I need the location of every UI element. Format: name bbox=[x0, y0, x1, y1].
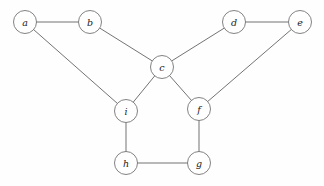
graph-node-label-b: b bbox=[87, 17, 93, 28]
graph-node-label-e: e bbox=[297, 17, 303, 28]
graph-edge-b-c bbox=[100, 28, 153, 61]
graph-edge-c-f bbox=[170, 76, 192, 101]
graph-node-c[interactable]: c bbox=[151, 56, 174, 79]
graph-edge-c-i bbox=[133, 76, 154, 102]
graph-figure: abcdefghi bbox=[0, 0, 324, 186]
graph-edge-e-f bbox=[208, 30, 292, 102]
graph-node-label-d: d bbox=[231, 17, 237, 28]
graph-node-label-i: i bbox=[124, 106, 127, 117]
graph-canvas: abcdefghi bbox=[0, 0, 324, 186]
graph-node-f[interactable]: f bbox=[188, 98, 211, 121]
graph-node-b[interactable]: b bbox=[79, 11, 102, 34]
graph-node-e[interactable]: e bbox=[289, 11, 312, 34]
graph-edge-c-d bbox=[172, 28, 225, 61]
graph-node-g[interactable]: g bbox=[188, 152, 211, 175]
graph-node-h[interactable]: h bbox=[115, 152, 138, 175]
node-layer: abcdefghi bbox=[14, 11, 312, 175]
graph-node-label-c: c bbox=[159, 62, 165, 73]
graph-node-label-g: g bbox=[196, 158, 202, 169]
graph-node-label-h: h bbox=[123, 158, 129, 169]
graph-node-i[interactable]: i bbox=[115, 100, 138, 123]
edge-layer bbox=[34, 22, 292, 163]
graph-node-d[interactable]: d bbox=[223, 11, 246, 34]
graph-node-label-a: a bbox=[22, 17, 28, 28]
graph-edge-a-i bbox=[34, 30, 118, 104]
graph-node-a[interactable]: a bbox=[14, 11, 37, 34]
